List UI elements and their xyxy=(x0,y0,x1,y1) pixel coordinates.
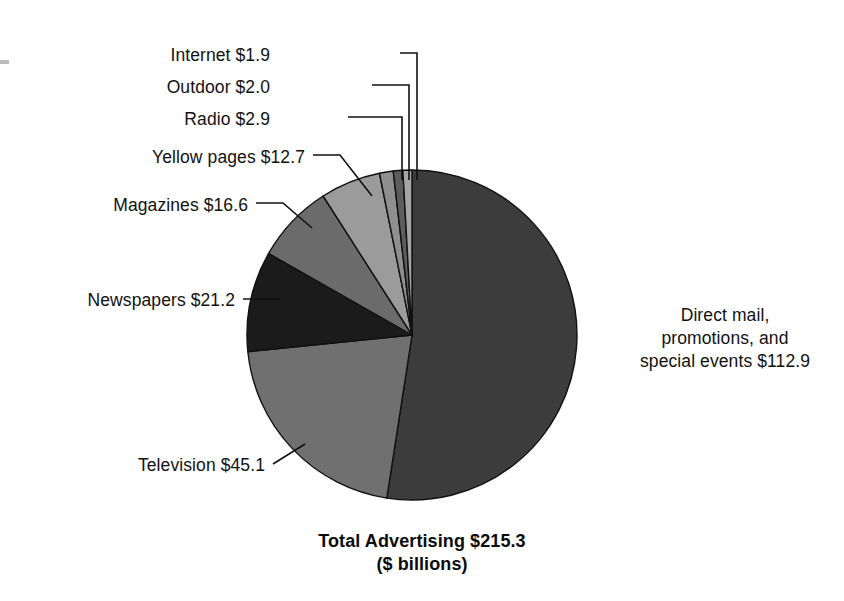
pie-slice-television xyxy=(248,335,412,498)
direct-mail-line-2: promotions, and xyxy=(662,328,789,348)
chart-title-line-1: Total Advertising $215.3 xyxy=(0,530,844,553)
slice-label-radio: Radio $2.9 xyxy=(140,108,270,131)
slice-label-magazines: Magazines $16.6 xyxy=(58,194,248,217)
pie-slice-direct-mail-promotions-and-special-events xyxy=(387,170,577,500)
slice-label-internet: Internet $1.9 xyxy=(140,44,270,67)
slice-label-direct-mail: Direct mail, promotions, and special eve… xyxy=(620,304,830,373)
chart-title: Total Advertising $215.3 ($ billions) xyxy=(0,530,844,576)
slice-label-television: Television $45.1 xyxy=(75,454,265,477)
slice-label-yellow-pages: Yellow pages $12.7 xyxy=(105,146,305,169)
advertising-spending-pie-chart: Internet $1.9 Outdoor $2.0 Radio $2.9 Ye… xyxy=(0,0,844,601)
leader-line-outdoor xyxy=(372,85,409,180)
slice-label-newspapers: Newspapers $21.2 xyxy=(35,289,235,312)
pie-slice-group xyxy=(247,170,577,500)
direct-mail-line-3: special events $112.9 xyxy=(640,351,810,371)
chart-title-line-2: ($ billions) xyxy=(0,553,844,576)
slice-label-outdoor: Outdoor $2.0 xyxy=(140,76,270,99)
direct-mail-line-1: Direct mail, xyxy=(681,305,770,325)
